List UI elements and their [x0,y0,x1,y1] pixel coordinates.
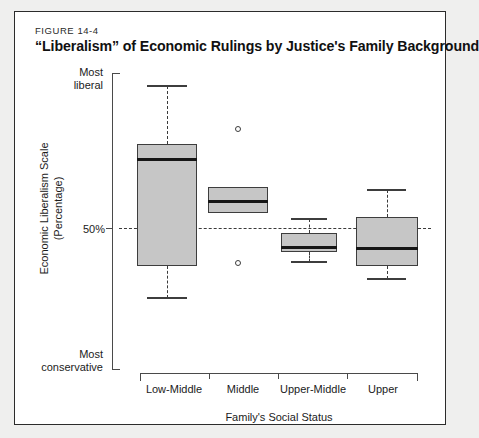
y-axis-tick-50 [106,228,113,229]
median-line [281,246,337,249]
box-body [281,233,337,252]
x-axis-category-low-middle: Low-Middle [133,383,215,395]
whisker-cap-upper [147,85,187,87]
y-axis-title: Economic Liberalism Scale (Percentage) [38,124,65,294]
outlier-point-low [235,260,241,266]
whisker-cap-lower [367,278,406,280]
whisker-cap-upper [367,189,406,191]
x-axis-tick-3 [347,373,348,379]
x-axis-left-cap [140,373,141,381]
whisker-cap-lower [147,297,187,299]
y-axis-top-cap [112,73,120,74]
y-axis-top-label: Most liberal [33,66,103,92]
whisker-cap-upper [291,218,327,220]
outlier-point-high [235,126,241,132]
y-axis-mid-label: 50% [59,223,105,236]
x-axis-right-cap [417,373,418,381]
x-axis-title: Family's Social Status [140,411,418,423]
whisker-upper [387,190,388,217]
box-body [356,217,418,266]
box-body [137,144,197,266]
median-line [137,158,197,161]
x-axis-tick-2 [278,373,279,379]
whisker-upper [309,219,310,233]
median-line [208,200,268,203]
x-axis-category-upper: Upper [345,383,421,395]
y-axis-bottom-cap [112,369,120,370]
median-line [356,247,418,250]
y-axis-line [112,73,113,370]
y-axis-bottom-label: Most conservative [17,348,103,374]
whisker-lower [167,266,168,298]
whisker-upper [167,86,168,144]
x-axis-tick-1 [209,373,210,379]
figure-panel: FIGURE 14-4 “Liberalism” of Economic Rul… [14,11,446,425]
boxplot-chart: Most liberal 50% Most conservative Econo… [15,12,447,426]
whisker-cap-lower [291,261,327,263]
